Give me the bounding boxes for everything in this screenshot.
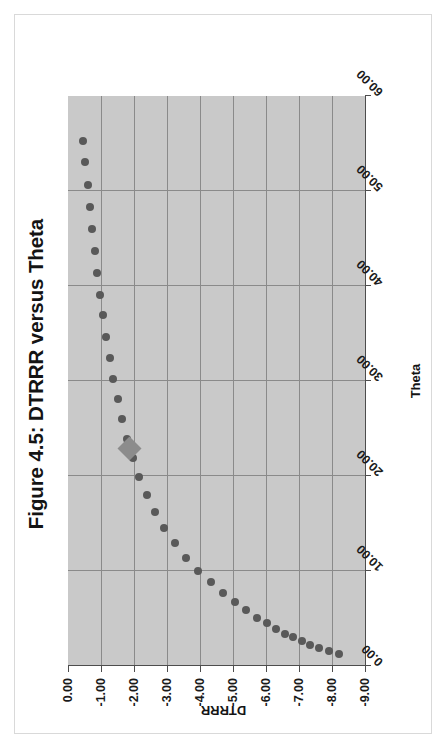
data-point <box>281 630 289 638</box>
data-point-highlight <box>118 436 142 460</box>
y-axis-tick-label: -6.00 <box>259 678 273 730</box>
y-axis-tick <box>167 666 168 672</box>
data-point <box>182 554 190 562</box>
x-axis-tick <box>365 190 371 191</box>
data-point <box>231 598 239 606</box>
data-point <box>289 634 297 642</box>
data-point <box>114 395 122 403</box>
x-gridline <box>68 190 365 191</box>
x-axis-tick <box>365 95 371 96</box>
data-point <box>325 647 333 655</box>
data-point <box>335 650 343 658</box>
chart-canvas: Figure 4.5: DTRRR versus Theta Theta DTR… <box>16 16 430 732</box>
data-point <box>84 181 92 189</box>
data-point <box>207 578 215 586</box>
data-point <box>315 644 323 652</box>
data-point <box>88 225 96 233</box>
data-point <box>242 606 250 614</box>
y-axis-tick-label: -9.00 <box>358 678 372 730</box>
data-point <box>253 614 261 622</box>
y-axis-tick-label: -1.00 <box>94 678 108 730</box>
x-gridline <box>68 285 365 286</box>
y-axis-tick-label: -8.00 <box>325 678 339 730</box>
y-axis-tick-label: -7.00 <box>292 678 306 730</box>
data-point <box>81 159 89 167</box>
data-point <box>106 354 114 362</box>
y-gridline <box>134 96 135 666</box>
data-point <box>96 291 104 299</box>
y-axis-tick <box>266 666 267 672</box>
x-axis-tick <box>365 285 371 286</box>
chart-title: Figure 4.5: DTRRR versus Theta <box>24 16 48 732</box>
x-axis-tick <box>365 475 371 476</box>
data-point <box>263 619 271 627</box>
y-gridline <box>332 96 333 666</box>
y-axis-tick <box>332 666 333 672</box>
y-axis-tick <box>299 666 300 672</box>
y-axis-tick-label: 0.00 <box>61 678 75 730</box>
y-axis-tick-label: -5.00 <box>226 678 240 730</box>
data-point <box>151 508 159 516</box>
data-point <box>143 491 151 499</box>
y-gridline <box>167 96 168 666</box>
data-point <box>306 641 314 649</box>
x-axis-tick <box>365 380 371 381</box>
data-point <box>86 203 94 211</box>
y-axis-tick-label: -4.00 <box>193 678 207 730</box>
y-gridline <box>101 96 102 666</box>
x-axis-tick <box>365 570 371 571</box>
data-point <box>219 589 227 597</box>
data-point <box>171 539 179 547</box>
y-gridline <box>266 96 267 666</box>
y-gridline <box>233 96 234 666</box>
rotated-chart-wrapper: Figure 4.5: DTRRR versus Theta Theta DTR… <box>16 16 430 732</box>
data-point <box>102 333 110 341</box>
data-point <box>272 625 280 633</box>
data-point <box>109 375 117 383</box>
data-point <box>79 137 87 145</box>
x-axis-title: Theta <box>408 96 423 666</box>
y-axis-tick-label: -3.00 <box>160 678 174 730</box>
y-axis-tick <box>101 666 102 672</box>
y-axis-tick <box>200 666 201 672</box>
x-gridline <box>68 570 365 571</box>
y-axis-tick <box>134 666 135 672</box>
y-axis-tick <box>233 666 234 672</box>
data-point <box>298 637 306 645</box>
y-gridline <box>299 96 300 666</box>
data-point <box>194 567 202 575</box>
y-gridline <box>200 96 201 666</box>
y-axis-tick-label: -2.00 <box>127 678 141 730</box>
y-axis-tick <box>68 666 69 672</box>
data-point <box>135 473 143 481</box>
data-point <box>118 415 126 423</box>
plot-area <box>68 96 365 666</box>
y-axis-line <box>68 665 366 666</box>
data-point <box>91 247 99 255</box>
data-point <box>99 311 107 319</box>
x-gridline <box>68 475 365 476</box>
y-axis-tick <box>365 666 366 672</box>
